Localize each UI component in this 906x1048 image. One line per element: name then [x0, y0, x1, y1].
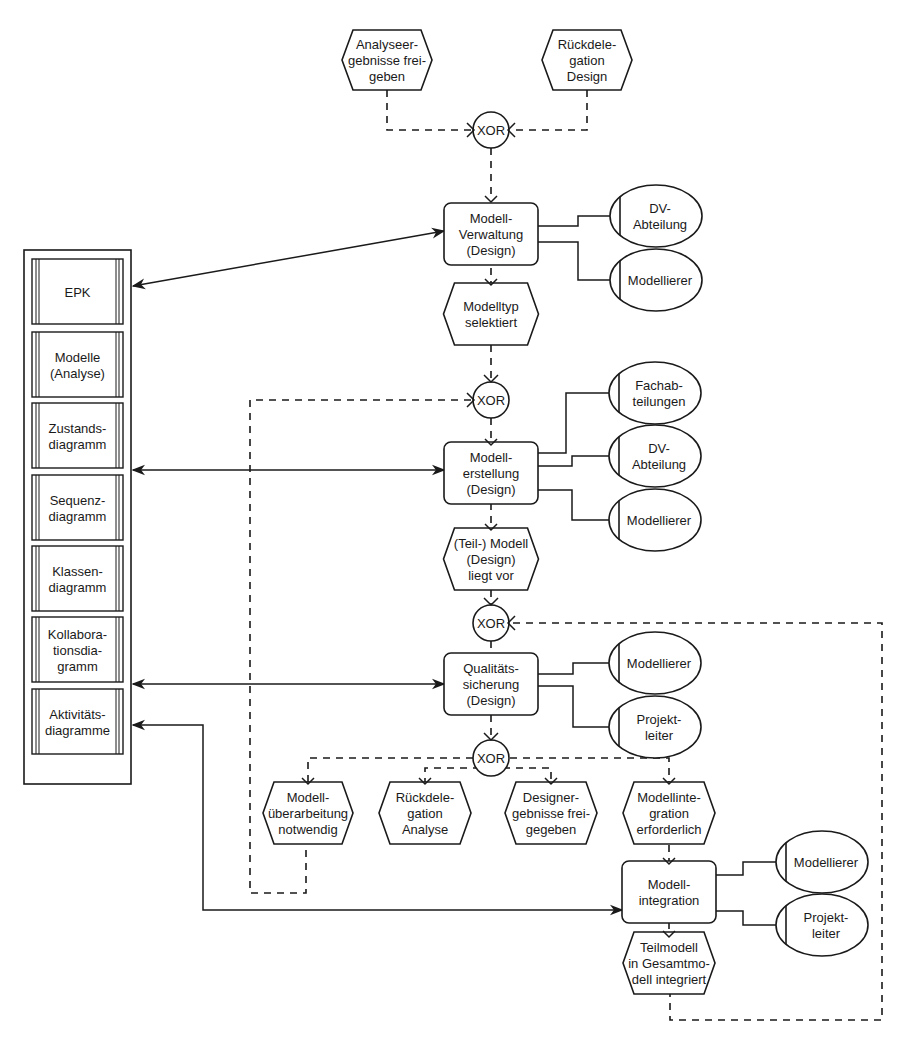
node-label: Modell-	[470, 450, 513, 465]
function-f1[interactable]: Modell-Verwaltung(Design)	[444, 203, 538, 265]
node-label: (Design)	[466, 693, 515, 708]
org-unit-o6[interactable]: Modellierer	[609, 632, 701, 694]
node-label: Sequenz-	[50, 493, 106, 508]
node-label: Fachab-	[635, 378, 683, 393]
event-e6[interactable]: Rückdele-gationAnalyse	[379, 782, 471, 844]
org-unit-o7[interactable]: Projekt-leiter	[609, 696, 701, 758]
node-label: gation	[407, 806, 442, 821]
function-f4[interactable]: Modell-integration	[622, 861, 716, 923]
node-label: DV-	[648, 441, 670, 456]
node-label: Verwaltung	[459, 227, 523, 242]
node-label: selektiert	[465, 315, 517, 330]
node-label: diagramm	[49, 437, 107, 452]
event-e8[interactable]: Modellinte-grationerforderlich	[623, 782, 715, 844]
org-unit-o4[interactable]: DV-Abteilung	[609, 425, 701, 487]
node-label: Zustands-	[49, 421, 107, 436]
node-label: erforderlich	[636, 822, 701, 837]
event-e3[interactable]: Modelltypselektiert	[444, 283, 539, 345]
node-label: Modellierer	[627, 513, 692, 528]
node-label: sicherung	[463, 677, 519, 692]
node-label: Abteilung	[632, 457, 686, 472]
document-item[interactable]: Zustands-diagramm	[32, 403, 123, 468]
xor-label: XOR	[477, 393, 505, 408]
node-label: Modellierer	[628, 273, 693, 288]
document-item[interactable]: Klassen-diagramm	[32, 546, 123, 611]
node-label: (Design)	[466, 482, 515, 497]
event-e2[interactable]: Rückdele-gationDesign	[542, 30, 632, 90]
node-label: in Gesamtmo-	[628, 956, 710, 971]
node-label: Modell-	[470, 211, 513, 226]
node-label: tionsdia-	[53, 643, 102, 658]
document-item[interactable]: Modelle(Analyse)	[32, 332, 123, 397]
node-label: Modelltyp	[463, 299, 519, 314]
node-label: gramm	[57, 659, 97, 674]
node-label: Rückdele-	[396, 790, 455, 805]
event-e9[interactable]: Teilmodellin Gesamtmo-dell integriert	[623, 932, 715, 994]
node-label: Abteilung	[633, 217, 687, 232]
node-label: Kollabora-	[48, 627, 107, 642]
node-label: Teilmodell	[640, 940, 698, 955]
org-unit-o2[interactable]: Modellierer	[610, 249, 702, 311]
node-label: (Design)	[466, 552, 515, 567]
event-e7[interactable]: Designer-gebnisse frei-gegeben	[505, 782, 597, 844]
node-label: Design	[567, 69, 607, 84]
node-label: Designer-	[523, 790, 579, 805]
xor-label: XOR	[477, 751, 505, 766]
node-label: gebnisse frei-	[512, 806, 590, 821]
org-unit-o3[interactable]: Fachab-teilungen	[609, 362, 701, 424]
node-label: notwendig	[278, 822, 337, 837]
function-f2[interactable]: Modell-erstellung(Design)	[444, 442, 538, 504]
event-e5[interactable]: Modell-überarbeitungnotwendig	[263, 782, 353, 844]
document-item[interactable]: EPK	[32, 259, 123, 324]
link-epk-verwaltung	[133, 231, 444, 286]
xor-connector: XOR	[467, 375, 509, 418]
document-item[interactable]: Aktivitäts-diagramme	[32, 689, 123, 754]
node-label: Projekt-	[637, 712, 682, 727]
node-label: diagramme	[45, 723, 110, 738]
node-label: Modell-	[648, 877, 691, 892]
node-label: Modell-	[287, 790, 330, 805]
node-label: gebnisse frei-	[348, 53, 426, 68]
node-label: (Teil-) Modell	[454, 536, 529, 551]
node-label: integration	[639, 893, 700, 908]
node-label: Analyse	[402, 822, 448, 837]
xor-connector: XOR	[473, 598, 515, 641]
node-label: teilungen	[633, 394, 686, 409]
node-label: gegeben	[526, 822, 577, 837]
document-item[interactable]: Kollabora-tionsdia-gramm	[32, 617, 123, 682]
xor-connector: XOR	[473, 733, 509, 776]
node-label: überarbeitung	[268, 806, 348, 821]
org-unit-o8[interactable]: Modellierer	[776, 831, 868, 893]
event-e1[interactable]: Analyseer-gebnisse frei-geben	[342, 30, 432, 90]
node-label: (Design)	[466, 243, 515, 258]
node-label: erstellung	[463, 466, 519, 481]
node-label: Aktivitäts-	[49, 707, 105, 722]
event-e4[interactable]: (Teil-) Modell(Design)liegt vor	[444, 528, 539, 590]
node-label: gation	[569, 53, 604, 68]
node-label: gration	[649, 806, 689, 821]
node-label: Modelle	[55, 350, 101, 365]
org-unit-o5[interactable]: Modellierer	[609, 489, 701, 551]
xor-label: XOR	[477, 616, 505, 631]
node-label: dell integriert	[632, 972, 707, 987]
org-unit-o1[interactable]: DV-Abteilung	[610, 185, 702, 247]
flow-arrow-icon	[485, 196, 497, 202]
node-label: Analyseer-	[356, 37, 418, 52]
org-unit-o9[interactable]: Projekt-leiter	[776, 894, 868, 956]
function-f3[interactable]: Qualitäts-sicherung(Design)	[444, 653, 538, 715]
document-item[interactable]: Sequenz-diagramm	[32, 475, 123, 540]
node-label: Rückdele-	[558, 37, 617, 52]
node-label: diagramm	[49, 509, 107, 524]
node-label: Klassen-	[52, 564, 103, 579]
node-label: Projekt-	[804, 910, 849, 925]
node-label: DV-	[649, 201, 671, 216]
node-label: EPK	[64, 285, 90, 300]
node-label: diagramm	[49, 580, 107, 595]
node-label: Modellierer	[794, 855, 859, 870]
xor-label: XOR	[477, 123, 505, 138]
xor-connector: XOR	[467, 112, 515, 148]
node-label: leiter	[812, 926, 841, 941]
node-label: liegt vor	[468, 568, 514, 583]
node-label: (Analyse)	[50, 366, 105, 381]
node-label: geben	[369, 69, 405, 84]
